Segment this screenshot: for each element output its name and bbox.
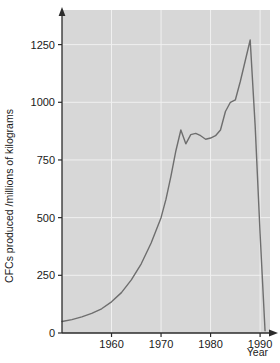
plot-area-background bbox=[62, 10, 270, 333]
x-tick-label: 1960 bbox=[99, 338, 123, 350]
x-tick-label: 1980 bbox=[198, 338, 222, 350]
chart-figure: 025050075010001250 1960197019801990 CFCs… bbox=[0, 0, 280, 363]
y-tick-label: 500 bbox=[37, 212, 55, 224]
chart-canvas: 025050075010001250 1960197019801990 CFCs… bbox=[0, 0, 280, 363]
y-tick-label: 0 bbox=[49, 327, 55, 339]
y-tick-label: 1250 bbox=[31, 39, 55, 51]
y-axis-title: CFCs produced /millions of kilograms bbox=[3, 109, 15, 283]
y-tick-label: 750 bbox=[37, 154, 55, 166]
x-axis-title: Year bbox=[247, 346, 269, 358]
x-tick-label: 1970 bbox=[149, 338, 173, 350]
y-tick-label: 250 bbox=[37, 269, 55, 281]
y-tick-label: 1000 bbox=[31, 96, 55, 108]
